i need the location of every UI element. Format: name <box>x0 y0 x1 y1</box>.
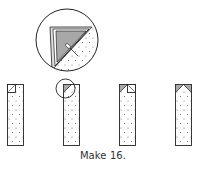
strip-step-1 <box>8 85 24 146</box>
strip-step-4 <box>176 85 192 146</box>
instruction-caption: Make 16. <box>0 150 200 161</box>
magnified-detail <box>30 5 110 80</box>
strip-step-2 <box>56 79 80 146</box>
diagram-canvas <box>0 0 200 169</box>
strip-step-3 <box>120 85 136 146</box>
